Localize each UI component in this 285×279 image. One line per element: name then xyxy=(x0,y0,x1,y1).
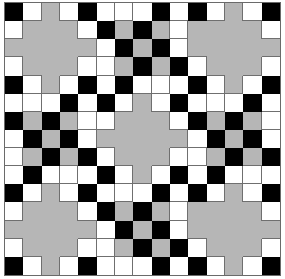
quilt-cell xyxy=(5,112,23,130)
quilt-cell xyxy=(243,221,261,239)
quilt-cell xyxy=(78,76,96,94)
quilt-cell xyxy=(97,76,115,94)
quilt-cell xyxy=(243,112,261,130)
quilt-cell xyxy=(133,57,151,75)
quilt-cell xyxy=(243,57,261,75)
quilt-cell xyxy=(60,112,78,130)
quilt-cell xyxy=(207,148,225,166)
quilt-cell xyxy=(225,76,243,94)
quilt-cell xyxy=(243,39,261,57)
quilt-cell xyxy=(262,130,280,148)
quilt-cell xyxy=(152,239,170,257)
quilt-cell xyxy=(60,21,78,39)
quilt-cell xyxy=(170,239,188,257)
quilt-cell xyxy=(115,94,133,112)
quilt-cell xyxy=(262,166,280,184)
quilt-cell xyxy=(152,221,170,239)
quilt-cell xyxy=(42,130,60,148)
quilt-cell xyxy=(115,166,133,184)
quilt-cell xyxy=(5,39,23,57)
quilt-cell xyxy=(207,112,225,130)
quilt-cell xyxy=(115,148,133,166)
quilt-cell xyxy=(78,257,96,275)
quilt-cell xyxy=(5,148,23,166)
quilt-cell xyxy=(225,21,243,39)
quilt-cell xyxy=(133,94,151,112)
quilt-cell xyxy=(78,148,96,166)
quilt-cell xyxy=(225,184,243,202)
quilt-cell xyxy=(42,3,60,21)
quilt-cell xyxy=(188,257,206,275)
quilt-cell xyxy=(207,184,225,202)
quilt-cell xyxy=(97,94,115,112)
quilt-cell xyxy=(42,221,60,239)
quilt-cell xyxy=(225,202,243,220)
quilt-cell xyxy=(5,166,23,184)
quilt-cell xyxy=(60,221,78,239)
quilt-cell xyxy=(5,130,23,148)
quilt-cell xyxy=(152,57,170,75)
quilt-cell xyxy=(152,166,170,184)
quilt-cell xyxy=(23,57,41,75)
quilt-cell xyxy=(225,130,243,148)
quilt-cell xyxy=(133,148,151,166)
quilt-cell xyxy=(170,184,188,202)
quilt-cell xyxy=(225,239,243,257)
quilt-cell xyxy=(78,3,96,21)
quilt-cell xyxy=(23,76,41,94)
quilt-cell xyxy=(78,221,96,239)
quilt-cell xyxy=(207,39,225,57)
quilt-cell xyxy=(5,239,23,257)
quilt-cell xyxy=(188,239,206,257)
quilt-cell xyxy=(207,221,225,239)
quilt-figure xyxy=(0,0,285,279)
quilt-cell xyxy=(152,21,170,39)
quilt-cell xyxy=(42,148,60,166)
quilt-cell xyxy=(115,39,133,57)
quilt-cell xyxy=(262,76,280,94)
quilt-cell xyxy=(262,3,280,21)
quilt-cell xyxy=(78,57,96,75)
quilt-cell xyxy=(115,184,133,202)
quilt-cell xyxy=(170,166,188,184)
quilt-cell xyxy=(152,130,170,148)
quilt-cell xyxy=(188,130,206,148)
quilt-cell xyxy=(170,21,188,39)
quilt-cell xyxy=(243,184,261,202)
quilt-cell xyxy=(78,184,96,202)
quilt-cell xyxy=(170,3,188,21)
quilt-cell xyxy=(42,257,60,275)
quilt-cell xyxy=(115,57,133,75)
quilt-cell xyxy=(152,257,170,275)
quilt-cell xyxy=(42,166,60,184)
quilt-cell xyxy=(60,130,78,148)
quilt-cell xyxy=(207,3,225,21)
quilt-cell xyxy=(42,112,60,130)
quilt-cell xyxy=(115,76,133,94)
quilt-cell xyxy=(188,221,206,239)
quilt-cell xyxy=(225,112,243,130)
quilt-cell xyxy=(78,130,96,148)
quilt-cell xyxy=(152,3,170,21)
quilt-cell xyxy=(23,39,41,57)
quilt-cell xyxy=(133,112,151,130)
quilt-cell xyxy=(262,221,280,239)
quilt-grid xyxy=(5,3,280,275)
quilt-cell xyxy=(262,112,280,130)
quilt-cell xyxy=(243,202,261,220)
quilt-cell xyxy=(225,221,243,239)
quilt-cell xyxy=(262,21,280,39)
quilt-cell xyxy=(23,148,41,166)
quilt-cell xyxy=(97,57,115,75)
quilt-cell xyxy=(23,202,41,220)
quilt-cell xyxy=(243,94,261,112)
quilt-cell xyxy=(133,184,151,202)
quilt-cell xyxy=(97,112,115,130)
quilt-cell xyxy=(188,57,206,75)
quilt-cell xyxy=(23,257,41,275)
quilt-cell xyxy=(97,21,115,39)
quilt-cell xyxy=(262,202,280,220)
quilt-cell xyxy=(60,76,78,94)
quilt-cell xyxy=(97,39,115,57)
quilt-cell xyxy=(225,94,243,112)
